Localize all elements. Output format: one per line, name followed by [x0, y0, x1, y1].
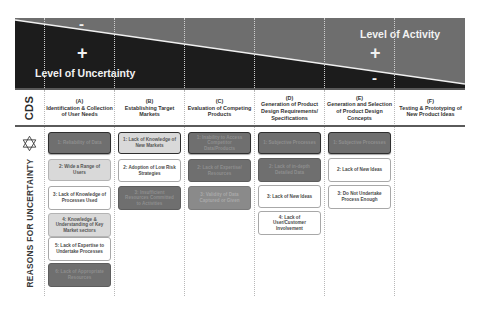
- reason-box-d3: 3: Lack of New Ideas: [258, 185, 321, 208]
- column-divider: [324, 90, 325, 296]
- reason-box-c2: 2: Lack of Expertise/ Resources: [188, 159, 251, 182]
- column-divider: [394, 18, 395, 88]
- column-letter: (A): [46, 98, 113, 105]
- activity-minus-sign: -: [372, 70, 377, 85]
- cds-row-label: CDS: [15, 90, 44, 125]
- uncertainty-plus-sign: +: [77, 44, 88, 62]
- header-bottom-rule: [15, 125, 465, 127]
- reason-box-d2: 2: Lack of in-depth Detailed Data: [258, 158, 321, 182]
- column-header-e: (E)Generation and Selection of Product D…: [326, 91, 393, 125]
- reason-box-a5: 5: Lack of Expertise to Undertake Proces…: [48, 237, 111, 261]
- column-letter: (B): [116, 98, 183, 105]
- activity-label: Level of Activity: [360, 28, 440, 40]
- column-header-a: (A)Identification & Collection of User N…: [46, 91, 113, 125]
- reason-box-e3: 3: Do Not Undertake Process Enough: [328, 185, 391, 209]
- column-divider: [44, 18, 45, 88]
- reasons-label-text: REASONS FOR UNCERTAINTY: [25, 159, 35, 288]
- star-of-david-icon: [21, 135, 38, 152]
- column-divider: [254, 90, 255, 296]
- column-title: Generation and Selection of Product Desi…: [326, 101, 393, 121]
- column-header-c: (C)Evaluation of Competing Products: [186, 91, 253, 125]
- column-header-d: (D)Generation of Product Design Requirem…: [256, 91, 323, 125]
- column-header-f: (F)Testing & Prototyping of New Product …: [396, 91, 465, 125]
- reason-box-a4: 4: Knowledge & Understanding of Key Mark…: [48, 213, 111, 237]
- reason-box-c3: 3: Validity of Data Captured or Given: [188, 186, 251, 210]
- column-divider: [184, 18, 185, 88]
- reasons-for-uncertainty-label: REASONS FOR UNCERTAINTY: [15, 158, 44, 288]
- cds-label-text: CDS: [23, 95, 35, 120]
- reason-box-e2: 2: Lack of New Ideas: [328, 158, 391, 182]
- column-title: Testing & Prototyping of New Product Ide…: [396, 105, 465, 118]
- activity-plus-sign: +: [370, 44, 381, 62]
- column-title: Generation of Product Design Requirement…: [256, 101, 323, 121]
- column-divider: [114, 18, 115, 88]
- column-letter: (D): [256, 95, 323, 102]
- uncertainty-minus-sign: -: [79, 18, 84, 31]
- reason-box-b2: 2: Adoption of Low Risk Strategies: [118, 159, 181, 182]
- reason-box-c1: 1: Inability to Access Competitor Data/P…: [188, 132, 251, 154]
- column-letter: (C): [186, 98, 253, 105]
- column-title: Establishing Target Markets: [116, 105, 183, 118]
- reason-box-e1: 1: Subjective Processes: [328, 132, 391, 154]
- column-title: Evaluation of Competing Products: [186, 105, 253, 118]
- column-letter: (E): [326, 95, 393, 102]
- reason-box-a1: 1: Reliability of Data: [48, 132, 111, 154]
- column-divider: [324, 18, 325, 88]
- reason-box-d1: 1: Subjective Processes: [258, 132, 321, 154]
- column-divider: [254, 18, 255, 88]
- column-header-b: (B)Establishing Target Markets: [116, 91, 183, 125]
- column-divider: [184, 90, 185, 296]
- reason-box-d4: 4: Lack of User/Customer Involvement: [258, 211, 321, 235]
- reason-box-b3: 3: Insufficient Resources Committed to A…: [118, 186, 181, 210]
- column-divider: [44, 90, 45, 296]
- column-divider: [394, 90, 395, 296]
- uncertainty-activity-banner: - + Level of Uncertainty Level of Activi…: [15, 18, 465, 88]
- reason-box-a2: 2: Wide a Range of Users: [48, 159, 111, 181]
- uncertainty-label: Level of Uncertainty: [35, 67, 135, 79]
- column-divider: [114, 90, 115, 296]
- reason-box-a6: 6: Lack of Appropriate Resources: [48, 263, 111, 287]
- column-letter: (F): [396, 98, 465, 105]
- reason-box-a3: 3: Lack of Knowledge of Processes Used: [48, 186, 111, 210]
- column-title: Identification & Collection of User Need…: [46, 105, 113, 118]
- header-top-rule: [15, 88, 465, 90]
- reason-box-b1: 1: Lack of Knowledge of New Markets: [118, 132, 181, 154]
